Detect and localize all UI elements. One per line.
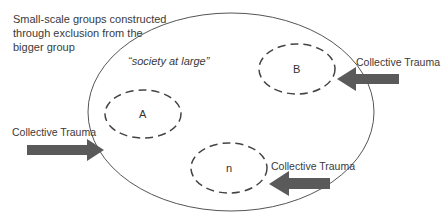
title-line: Small-scale groups constructed <box>13 12 166 26</box>
trauma-label-outer: Collective Trauma <box>12 126 96 139</box>
arrow-trauma-outer <box>27 139 104 161</box>
diagram-title: Small-scale groups constructed through e… <box>13 12 166 54</box>
group-n-label: n <box>226 162 232 175</box>
trauma-label-n: Collective Trauma <box>271 160 355 173</box>
arrow-trauma-n <box>269 171 330 196</box>
trauma-label-b: Collective Trauma <box>356 56 440 69</box>
arrow-trauma-b <box>337 67 399 91</box>
society-label: “society at large” <box>128 55 209 68</box>
title-line: bigger group <box>13 40 166 54</box>
group-a-label: A <box>139 108 146 121</box>
title-line: through exclusion from the <box>13 26 166 40</box>
group-b-label: B <box>293 63 300 76</box>
